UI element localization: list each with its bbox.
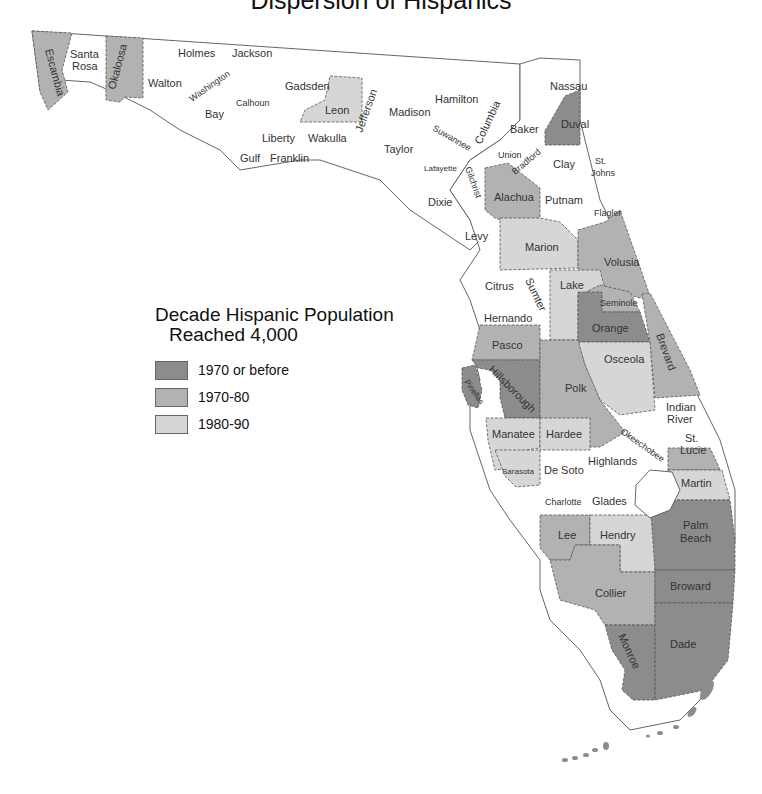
label-osceola: Osceola [604, 353, 645, 365]
label-franklin: Franklin [270, 152, 309, 164]
label-walton: Walton [148, 77, 182, 89]
label-nassau: Nassau [550, 80, 587, 92]
label-st-lucie: St. [685, 432, 698, 444]
label-flagler: Flagler [594, 208, 622, 218]
label-putnam: Putnam [545, 194, 583, 206]
label-gulf: Gulf [240, 152, 261, 164]
label-indian-river: Indian [666, 401, 696, 413]
label-lee: Lee [558, 529, 576, 541]
legend-item-1980-90: 1980-90 [155, 413, 394, 435]
label-lake: Lake [560, 279, 584, 291]
label-citrus: Citrus [485, 280, 514, 292]
label-indian-river-2: River [667, 413, 693, 425]
legend-swatch-light [155, 415, 188, 434]
label-union: Union [498, 150, 522, 160]
label-baker: Baker [510, 123, 539, 135]
label-madison: Madison [389, 106, 431, 118]
label-dixie: Dixie [428, 196, 452, 208]
legend-item-1970-80: 1970-80 [155, 386, 394, 408]
label-seminole: Seminole [600, 298, 638, 308]
label-calhoun: Calhoun [236, 98, 270, 108]
label-jackson: Jackson [232, 47, 272, 59]
label-clay: Clay [553, 158, 576, 170]
label-gadsden: Gadsden [285, 80, 330, 92]
label-polk: Polk [565, 382, 587, 394]
label-st-lucie-2: Lucie [680, 444, 706, 456]
legend: Decade Hispanic Population Reached 4,000… [155, 305, 394, 440]
label-hardee: Hardee [546, 428, 582, 440]
label-bay: Bay [205, 108, 224, 120]
label-st-johns-2: Johns [591, 168, 616, 178]
label-charlotte: Charlotte [545, 497, 582, 507]
label-hamilton: Hamilton [435, 93, 478, 105]
label-manatee: Manatee [492, 428, 535, 440]
label-martin: Martin [681, 477, 712, 489]
label-sarasota: Sarasota [502, 467, 535, 476]
legend-swatch-medium [155, 388, 188, 407]
label-lafayette: Lafayette [424, 164, 457, 173]
label-hendry: Hendry [600, 529, 636, 541]
legend-swatch-dark [155, 361, 188, 380]
label-santa-rosa: Santa [70, 48, 100, 60]
legend-title-line1: Decade Hispanic Population [155, 304, 394, 325]
label-pasco: Pasco [492, 339, 523, 351]
label-hernando: Hernando [484, 312, 532, 324]
label-volusia: Volusia [604, 256, 640, 268]
label-palm-beach: Palm [683, 519, 708, 531]
legend-title: Decade Hispanic Population Reached 4,000 [155, 305, 394, 345]
legend-label: 1970 or before [198, 362, 289, 378]
label-dade: Dade [670, 638, 696, 650]
legend-item-1970-or-before: 1970 or before [155, 359, 394, 381]
label-broward: Broward [670, 580, 711, 592]
legend-label: 1980-90 [198, 416, 249, 432]
label-liberty: Liberty [262, 132, 296, 144]
label-santa-rosa-2: Rosa [72, 60, 99, 72]
label-palm-beach-2: Beach [680, 532, 711, 544]
label-de-soto: De Soto [544, 464, 584, 476]
label-alachua: Alachua [494, 191, 535, 203]
label-duval: Duval [561, 118, 589, 130]
label-glades: Glades [592, 495, 627, 507]
label-orange: Orange [592, 322, 629, 334]
legend-title-line2: Reached 4,000 [155, 325, 394, 345]
label-marion: Marion [525, 241, 559, 253]
label-st-johns: St. [595, 156, 606, 166]
label-holmes: Holmes [178, 47, 216, 59]
label-levy: Levy [465, 230, 489, 242]
label-leon: Leon [325, 104, 349, 116]
label-highlands: Highlands [588, 455, 637, 467]
label-taylor: Taylor [384, 143, 414, 155]
label-collier: Collier [595, 587, 627, 599]
county-dade [655, 603, 733, 700]
label-wakulla: Wakulla [308, 132, 348, 144]
legend-label: 1970-80 [198, 389, 249, 405]
